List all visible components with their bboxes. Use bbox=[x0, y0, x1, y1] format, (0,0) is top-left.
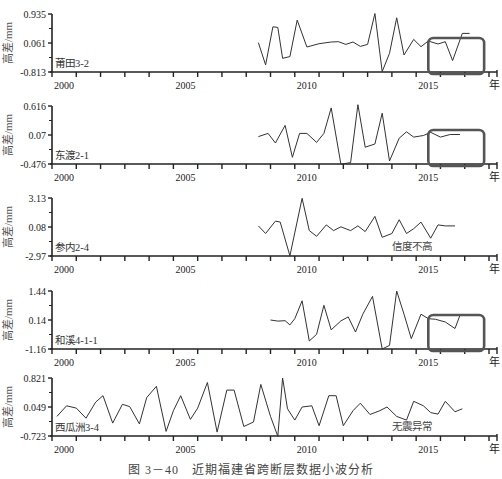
svg-text:2000: 2000 bbox=[54, 357, 74, 368]
svg-text:0.049: 0.049 bbox=[24, 402, 47, 413]
svg-text:莆田3-2: 莆田3-2 bbox=[55, 57, 89, 69]
svg-text:0.616: 0.616 bbox=[24, 101, 47, 112]
svg-text:0.07: 0.07 bbox=[29, 130, 47, 141]
panel-svg: 0.6160.07-0.4762000200520102015年高差/mm东渡2… bbox=[0, 100, 502, 190]
svg-text:参内2-4: 参内2-4 bbox=[55, 241, 90, 253]
series-line bbox=[258, 14, 469, 72]
svg-text:2010: 2010 bbox=[297, 444, 317, 455]
chart-panel-1: 0.9350.061-0.8132000200520102015年高差/mm莆田… bbox=[0, 8, 502, 98]
svg-text:年: 年 bbox=[489, 355, 500, 368]
svg-text:2010: 2010 bbox=[297, 264, 317, 275]
svg-text:2015: 2015 bbox=[418, 264, 438, 275]
svg-text:2010: 2010 bbox=[297, 172, 317, 183]
svg-text:高差/mm: 高差/mm bbox=[1, 385, 14, 428]
svg-text:2000: 2000 bbox=[54, 172, 74, 183]
svg-text:3.13: 3.13 bbox=[29, 193, 47, 204]
svg-text:年: 年 bbox=[489, 442, 500, 455]
chart-panel-3: 3.130.08-2.972000200520102015年高差/mm参内2-4… bbox=[0, 192, 502, 282]
chart-panel-4: 1.440.14-1.162000200520102015年高差/mm和溪4-1… bbox=[0, 285, 502, 375]
svg-text:高差/mm: 高差/mm bbox=[1, 205, 14, 248]
svg-text:0.821: 0.821 bbox=[24, 373, 47, 384]
highlight-box bbox=[428, 315, 484, 351]
svg-text:2015: 2015 bbox=[418, 444, 438, 455]
svg-text:东渡2-1: 东渡2-1 bbox=[55, 149, 89, 161]
panel-svg: 1.440.14-1.162000200520102015年高差/mm和溪4-1… bbox=[0, 285, 502, 375]
series-line bbox=[271, 291, 460, 349]
svg-text:2015: 2015 bbox=[418, 172, 438, 183]
series-line bbox=[258, 105, 460, 165]
svg-text:2000: 2000 bbox=[54, 264, 74, 275]
svg-text:2010: 2010 bbox=[297, 357, 317, 368]
svg-text:西瓜洲3-4: 西瓜洲3-4 bbox=[55, 422, 100, 433]
svg-text:2005: 2005 bbox=[175, 172, 195, 183]
svg-text:2005: 2005 bbox=[175, 264, 195, 275]
svg-text:2005: 2005 bbox=[175, 444, 195, 455]
svg-text:高差/mm: 高差/mm bbox=[1, 21, 14, 64]
svg-text:-0.476: -0.476 bbox=[20, 159, 46, 170]
svg-text:-0.813: -0.813 bbox=[20, 67, 46, 78]
svg-text:0.14: 0.14 bbox=[29, 315, 47, 326]
panel-svg: 0.8210.049-0.7232000200520102015年高差/mm西瓜… bbox=[0, 372, 502, 462]
svg-text:0.061: 0.061 bbox=[24, 38, 47, 49]
svg-text:无震异常: 无震异常 bbox=[392, 420, 432, 432]
svg-text:年: 年 bbox=[489, 262, 500, 275]
chart-panel-5: 0.8210.049-0.7232000200520102015年高差/mm西瓜… bbox=[0, 372, 502, 462]
svg-text:-0.723: -0.723 bbox=[20, 431, 46, 442]
svg-text:2010: 2010 bbox=[297, 80, 317, 91]
svg-text:2015: 2015 bbox=[418, 80, 438, 91]
svg-text:2015: 2015 bbox=[418, 357, 438, 368]
svg-text:2005: 2005 bbox=[175, 80, 195, 91]
svg-text:-2.97: -2.97 bbox=[25, 251, 46, 262]
svg-text:2000: 2000 bbox=[54, 80, 74, 91]
svg-text:1.44: 1.44 bbox=[29, 286, 47, 297]
svg-text:高差/mm: 高差/mm bbox=[1, 298, 14, 341]
svg-text:高差/mm: 高差/mm bbox=[1, 113, 14, 156]
svg-text:2000: 2000 bbox=[54, 444, 74, 455]
svg-text:年: 年 bbox=[489, 170, 500, 183]
panel-svg: 0.9350.061-0.8132000200520102015年高差/mm莆田… bbox=[0, 8, 502, 98]
svg-text:2005: 2005 bbox=[175, 357, 195, 368]
svg-text:0.935: 0.935 bbox=[24, 9, 47, 20]
chart-panel-2: 0.6160.07-0.4762000200520102015年高差/mm东渡2… bbox=[0, 100, 502, 190]
svg-text:信度不高: 信度不高 bbox=[392, 240, 432, 252]
svg-text:年: 年 bbox=[489, 78, 500, 91]
svg-text:0.08: 0.08 bbox=[29, 222, 47, 233]
panel-svg: 3.130.08-2.972000200520102015年高差/mm参内2-4… bbox=[0, 192, 502, 282]
svg-text:和溪4-1-1: 和溪4-1-1 bbox=[55, 335, 98, 346]
svg-text:-1.16: -1.16 bbox=[25, 344, 46, 355]
figure-caption: 图 3－40 近期福建省跨断层数据小波分析 bbox=[0, 460, 502, 478]
